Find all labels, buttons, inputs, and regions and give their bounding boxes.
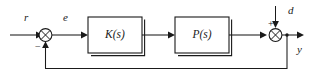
output-wire xyxy=(282,32,304,39)
disturbance-junction xyxy=(269,29,282,42)
error-signal-wire xyxy=(52,32,88,39)
label-reference-signal: r xyxy=(24,12,28,23)
label-disturbance-signal: d xyxy=(288,5,294,16)
arrowhead-controller-input xyxy=(81,32,88,39)
arrowhead-output xyxy=(297,32,304,39)
arrowhead-feedback-into-junction xyxy=(42,41,49,48)
feedback-sign-minus: − xyxy=(35,42,41,52)
arrowhead-disturbance-junction-input xyxy=(260,32,267,39)
label-error-signal: e xyxy=(63,12,68,23)
plant-to-disturbance-junction-wire xyxy=(229,32,267,39)
controller-block-label: K(s) xyxy=(88,29,142,41)
disturbance-sign-plus: + xyxy=(268,19,274,29)
reference-input-wire xyxy=(10,32,43,39)
feedback-path-wire xyxy=(42,35,287,69)
block-diagram: r e d y − + K(s) P(s) xyxy=(0,0,310,79)
arrowhead-plant-input xyxy=(168,32,175,39)
block-diagram-canvas xyxy=(0,0,310,79)
controller-to-plant-wire xyxy=(142,32,175,39)
error-junction xyxy=(39,29,52,42)
plant-block-label: P(s) xyxy=(175,29,229,41)
label-output-signal: y xyxy=(297,44,302,55)
